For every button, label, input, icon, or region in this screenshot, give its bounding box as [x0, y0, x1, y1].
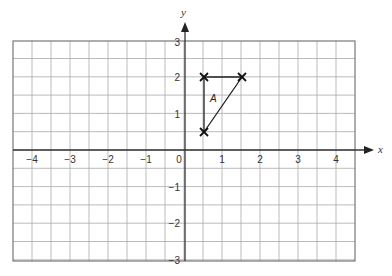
y-axis-arrow-icon [181, 22, 189, 32]
triangle-a [204, 77, 242, 132]
x-tick-labels: −4 −3 −2 −1 0 1 2 3 4 [26, 154, 339, 165]
x-tick: −1 [140, 154, 152, 165]
y-tick: −2 [169, 218, 181, 229]
y-tick: 2 [174, 72, 180, 83]
y-tick-labels: 3 2 1 −1 −2 −3 [169, 37, 181, 266]
x-axis-arrow-icon [364, 146, 374, 154]
x-axis-label: x [377, 143, 383, 155]
coordinate-grid-diagram: x y −4 −3 −2 −1 0 1 2 3 4 3 2 1 −1 −2 −3… [0, 0, 392, 276]
y-tick: 3 [174, 37, 180, 48]
y-tick: −1 [169, 182, 181, 193]
x-tick: 0 [176, 154, 182, 165]
y-axis-label: y [180, 6, 186, 18]
x-tick: 1 [219, 154, 225, 165]
x-tick: 2 [257, 154, 263, 165]
x-tick: 4 [333, 154, 339, 165]
shape-label: A [209, 93, 217, 104]
x-tick: −2 [102, 154, 114, 165]
x-tick: 3 [295, 154, 301, 165]
x-tick: −3 [64, 154, 76, 165]
grid-lines [13, 41, 355, 261]
y-tick: 1 [174, 109, 180, 120]
y-tick: −3 [169, 255, 181, 266]
x-tick: −4 [26, 154, 38, 165]
